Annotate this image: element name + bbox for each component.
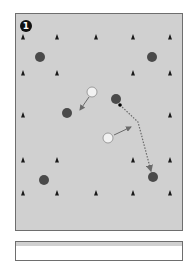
step-badge: 1 xyxy=(20,20,32,32)
step-badge-label: 1 xyxy=(23,21,29,31)
field-background-2 xyxy=(16,242,182,246)
field-background xyxy=(16,14,182,230)
defender-player-icon xyxy=(35,52,45,62)
attacker-player-icon xyxy=(87,87,97,97)
ball-icon xyxy=(118,103,122,107)
defender-player-icon xyxy=(148,172,158,182)
defender-player-icon xyxy=(62,108,72,118)
defender-player-icon xyxy=(39,175,49,185)
defender-player-icon xyxy=(111,94,121,104)
defender-player-icon xyxy=(147,52,157,62)
attacker-player-icon xyxy=(103,133,113,143)
